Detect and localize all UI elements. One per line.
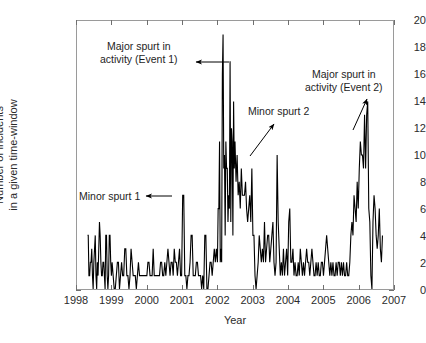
x-tick-mark [323,285,324,290]
annotation-event2-line1: Major spurt in [305,68,383,81]
x-tick-mark [394,285,395,290]
x-tick-mark [111,285,112,290]
x-tick-label: 2006 [346,294,370,306]
x-tick-mark-top [147,20,148,25]
annotation-minor1-line1: Minor spurt 1 [79,190,140,203]
x-tick-label: 1998 [64,294,88,306]
x-tick-label: 2007 [382,294,406,306]
x-tick-mark [253,285,254,290]
annotation-minor2-line1: Minor spurt 2 [248,105,309,118]
x-tick-mark [288,285,289,290]
y-tick-mark-right [389,290,394,291]
annotation-event2: Major spurt in activity (Event 2) [305,68,383,94]
x-tick-label: 2001 [170,294,194,306]
annotation-event1-line1: Major spurt in [100,40,178,53]
x-tick-mark [76,285,77,290]
x-tick-label: 2005 [311,294,335,306]
x-tick-mark-top [76,20,77,25]
x-tick-mark-top [359,20,360,25]
y-tick-mark [76,290,81,291]
x-tick-label: 1999 [99,294,123,306]
x-tick-mark [217,285,218,290]
x-tick-mark-top [323,20,324,25]
y-axis-label-line2: in a given time-window [6,99,20,210]
x-tick-mark-top [217,20,218,25]
x-tick-mark-top [253,20,254,25]
x-tick-mark [359,285,360,290]
x-axis-label: Year [224,314,246,326]
x-tick-label: 2002 [205,294,229,306]
x-tick-mark-top [182,20,183,25]
x-tick-mark-top [111,20,112,25]
annotation-minor1: Minor spurt 1 [79,190,140,203]
y-axis-label: Number of incidents in a given time-wind… [0,99,20,210]
chart-figure: 02468101214161820 Number of incidents in… [0,0,426,343]
x-tick-mark [147,285,148,290]
x-tick-mark [182,285,183,290]
annotation-event1-line2: activity (Event 1) [100,53,178,66]
x-tick-label: 2003 [240,294,264,306]
x-tick-mark-top [288,20,289,25]
x-tick-mark-top [394,20,395,25]
x-tick-label: 2000 [134,294,158,306]
annotation-minor2: Minor spurt 2 [248,105,309,118]
annotation-event2-line2: activity (Event 2) [305,81,383,94]
y-axis-label-line1: Number of incidents [0,106,5,204]
annotation-event1: Major spurt in activity (Event 1) [100,40,178,66]
x-tick-label: 2004 [276,294,300,306]
